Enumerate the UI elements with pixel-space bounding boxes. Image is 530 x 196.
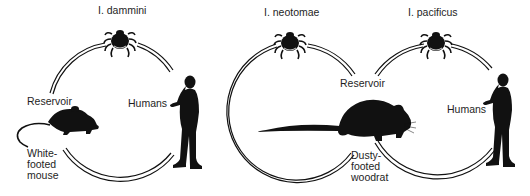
host-label-dusty-footed-woodrat: Dusty- footed woodrat (351, 150, 388, 183)
humans-label-left: Humans (128, 98, 167, 109)
vector-label-pacificus: I. pacificus (408, 6, 458, 18)
reservoir-label-middle: Reservoir (340, 78, 385, 89)
reservoir-label-left: Reservoir (27, 96, 72, 107)
tick-icon (420, 32, 452, 59)
vector-label-neotomae: I. neotomae (264, 6, 319, 18)
lyme-transmission-diagram: I. dammini I. neotomae I. pacificus Rese… (0, 0, 530, 196)
woodrat-icon (258, 100, 416, 141)
vector-label-dammini: I. dammini (98, 4, 146, 16)
tick-icon (274, 32, 306, 59)
cycle-neotomae-ring (227, 44, 355, 183)
tick-icon (104, 30, 136, 57)
humans-label-right: Humans (447, 104, 486, 115)
human-icon (170, 76, 202, 170)
host-label-white-footed-mouse: White- footed mouse (27, 148, 59, 181)
mouse-icon (17, 106, 98, 147)
diagram-canvas (0, 0, 530, 196)
